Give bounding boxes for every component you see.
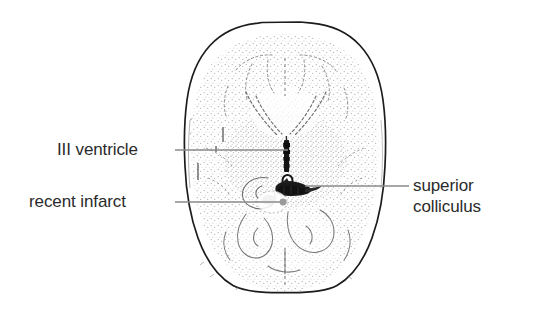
annotation-label-recent-infarct: recent infarct	[29, 191, 126, 212]
annotation-label-iii-ventricle: III ventricle	[57, 139, 138, 160]
figure-page: III ventricle recent infarct superior co…	[0, 0, 537, 315]
leader-endpoint-recent-infarct	[280, 199, 287, 206]
third-ventricle-marker	[283, 136, 290, 172]
annotation-label-superior-colliculus-line1: superior	[413, 175, 481, 196]
annotation-label-superior-colliculus-line2: colliculus	[413, 196, 481, 217]
annotation-label-superior-colliculus: superior colliculus	[413, 175, 481, 217]
